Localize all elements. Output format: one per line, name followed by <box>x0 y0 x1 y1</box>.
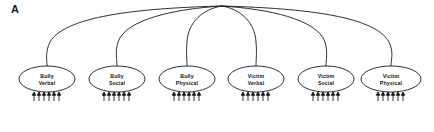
indicator-arrow <box>396 92 399 101</box>
indicator-arrow <box>401 92 404 101</box>
path-apex-to-bully-social <box>116 6 222 66</box>
indicator-arrow-group <box>32 92 60 101</box>
node-label-line2: Physical <box>176 80 199 86</box>
indicator-arrow <box>57 92 60 101</box>
indicator-arrow <box>326 92 329 101</box>
path-apex-to-victim-physical <box>222 6 392 66</box>
indicator-arrow <box>192 92 195 101</box>
node-label-line2: Social <box>109 80 126 86</box>
node-bully-social: Bully Social <box>89 66 145 101</box>
path-apex-to-bully-verbal <box>47 6 222 66</box>
indicator-arrow-group <box>102 92 130 101</box>
path-apex-to-bully-physical <box>187 6 222 66</box>
node-label-line2: Social <box>318 80 335 86</box>
indicator-arrow <box>127 92 130 101</box>
node-label-line1: Victim <box>318 73 335 79</box>
latent-node-group: Bully Verbal Bully Social <box>19 66 421 101</box>
indicator-arrow <box>122 92 125 101</box>
sem-path-diagram: Bully Verbal Bully Social <box>0 0 434 132</box>
indicator-arrow <box>311 92 314 101</box>
node-label-line1: Victim <box>383 73 400 79</box>
node-bully-physical: Bully Physical <box>159 66 215 101</box>
indicator-arrow <box>182 92 185 101</box>
indicator-arrow <box>37 92 40 101</box>
indicator-arrow <box>32 92 35 101</box>
indicator-arrow <box>117 92 120 101</box>
node-victim-verbal: Victim Verbal <box>228 66 284 101</box>
indicator-arrow <box>251 92 254 101</box>
indicator-arrow <box>376 92 379 101</box>
indicator-arrow <box>241 92 244 101</box>
node-label-line1: Bully <box>40 73 53 79</box>
node-label-line2: Verbal <box>39 80 56 86</box>
indicator-arrow <box>261 92 264 101</box>
path-apex-to-victim-social <box>222 6 327 66</box>
path-apex-to-victim-verbal <box>222 6 256 66</box>
indicator-arrow <box>246 92 249 101</box>
node-label-line2: Physical <box>380 80 403 86</box>
indicator-arrow <box>107 92 110 101</box>
indicator-arrow <box>102 92 105 101</box>
indicator-arrow <box>177 92 180 101</box>
figure-panel-a: A Bully Verbal <box>0 0 434 132</box>
indicator-arrow <box>112 92 115 101</box>
node-victim-social: Victim Social <box>298 66 354 101</box>
indicator-arrow <box>197 92 200 101</box>
indicator-arrow-group <box>172 92 200 101</box>
indicator-arrow <box>172 92 175 101</box>
node-victim-physical: Victim Physical <box>361 66 421 101</box>
indicator-arrow <box>52 92 55 101</box>
indicator-arrow <box>391 92 394 101</box>
indicator-arrow <box>381 92 384 101</box>
indicator-arrow-group <box>241 92 269 101</box>
node-label-line2: Verbal <box>248 80 265 86</box>
indicator-arrow <box>47 92 50 101</box>
indicator-arrow <box>187 92 190 101</box>
indicator-arrow <box>386 92 389 101</box>
node-label-line1: Victim <box>248 73 265 79</box>
indicator-arrow <box>336 92 339 101</box>
indicator-arrow-group <box>311 92 339 101</box>
node-label-line1: Bully <box>110 73 123 79</box>
covariance-path-group <box>47 6 392 66</box>
indicator-arrow <box>331 92 334 101</box>
indicator-arrow <box>256 92 259 101</box>
indicator-arrow <box>321 92 324 101</box>
indicator-arrow-group <box>376 92 404 101</box>
node-label-line1: Bully <box>180 73 193 79</box>
indicator-arrow <box>316 92 319 101</box>
indicator-arrow <box>266 92 269 101</box>
node-bully-verbal: Bully Verbal <box>19 66 75 101</box>
indicator-arrow <box>42 92 45 101</box>
